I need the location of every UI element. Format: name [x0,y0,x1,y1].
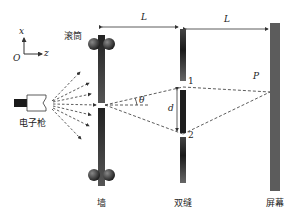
screen-label: 屏幕 [266,196,284,209]
screen [270,23,280,191]
distance-arrows [102,27,268,29]
point-p-label: P [253,71,259,81]
roller-top-left [88,38,100,50]
roller-top-right [103,38,115,50]
double-slit-diagram [0,0,297,215]
roller-bottom-left [88,169,100,181]
wall-label: 墙 [97,196,106,209]
electron-gun [14,95,46,111]
interference-paths [105,87,270,134]
roller-label: 滚筒 [64,29,82,42]
wall [88,35,115,186]
distance-label-1: L [141,12,147,22]
origin-label: O [13,53,20,63]
roller-bottom-right [103,169,115,181]
slit-separation-label: d [168,103,174,113]
angle-arc [135,98,137,105]
electron-beams [52,72,96,139]
slit-1-label: 1 [188,76,194,86]
axis-x-label: x [19,26,24,36]
distance-label-2: L [224,14,230,24]
electron-gun-label: 电子枪 [19,116,46,129]
slit-2-label: 2 [188,130,194,140]
axis-z-label: z [44,48,49,58]
double-slit-label: 双缝 [174,196,192,209]
double-slit-plate [180,29,186,183]
coordinate-axes [24,38,42,54]
angle-label: θ [139,95,144,105]
